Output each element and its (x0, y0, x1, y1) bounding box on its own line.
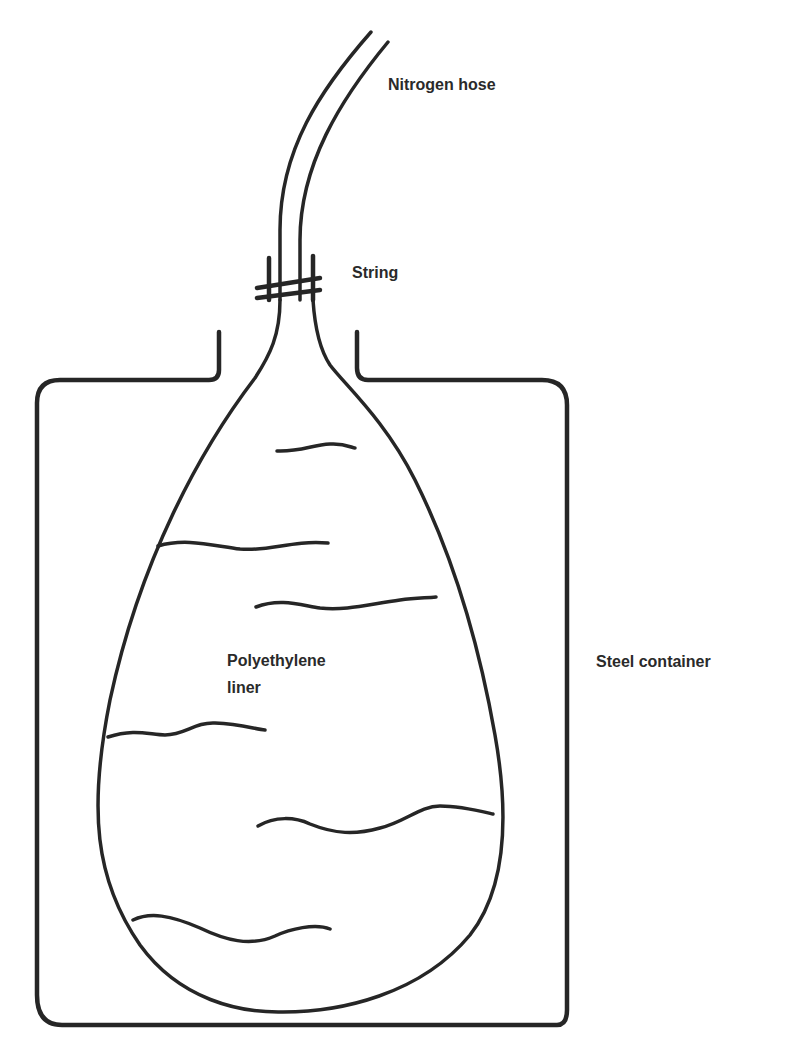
diagram-canvas (0, 0, 793, 1054)
label-polyethylene-liner-line1: Polyethylene (227, 651, 326, 671)
label-nitrogen-hose: Nitrogen hose (388, 75, 496, 95)
label-polyethylene-liner-line2: liner (227, 678, 261, 698)
liner-wrinkles (108, 444, 493, 942)
nitrogen-hose (280, 32, 388, 300)
label-steel-container: Steel container (596, 652, 711, 672)
string-tie (257, 256, 320, 300)
label-string: String (352, 263, 398, 283)
